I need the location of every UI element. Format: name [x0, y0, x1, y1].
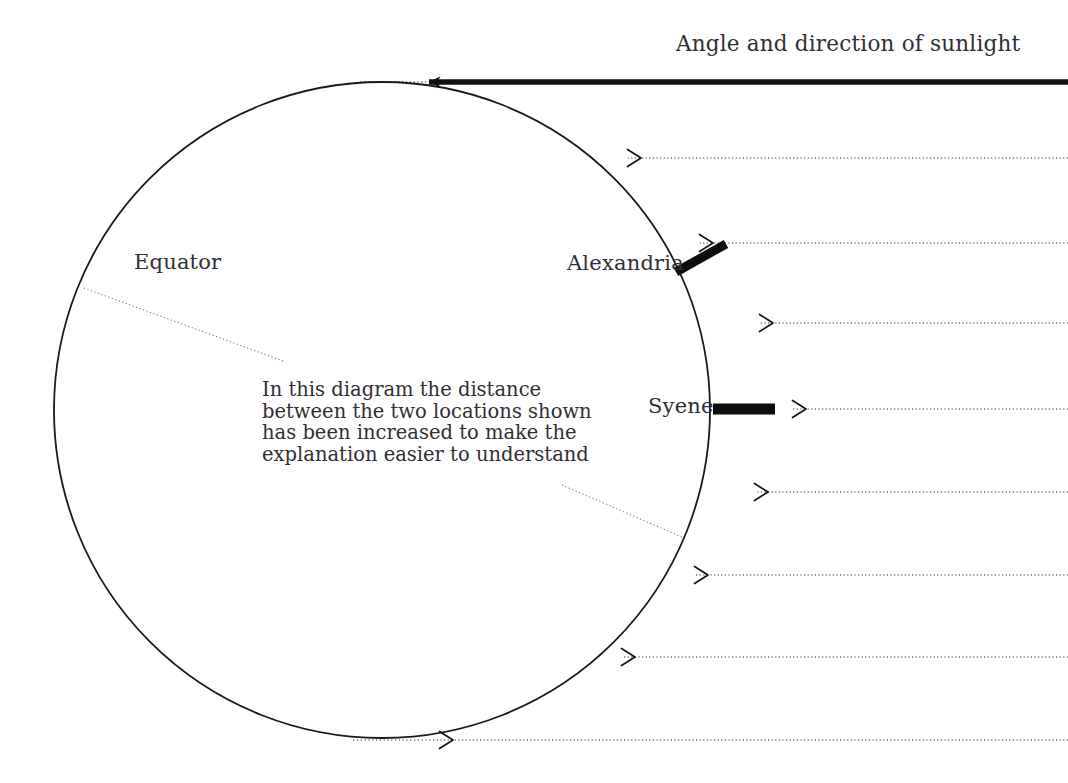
diagram-canvas: Angle and direction of sunlight Equator …: [0, 0, 1068, 783]
caption-leader-line: [562, 485, 684, 538]
syene-label: Syene: [648, 394, 714, 418]
equator-label: Equator: [134, 250, 221, 274]
caption-line-1: In this diagram the distance: [262, 379, 582, 401]
caption-line-4: explanation easier to understand: [262, 444, 582, 466]
equator-leader-line: [84, 288, 283, 361]
caption-line-2: between the two locations shown: [262, 401, 582, 423]
explanation-caption: In this diagram the distance between the…: [262, 379, 582, 465]
caption-line-3: has been increased to make the: [262, 422, 582, 444]
alexandria-label: Alexandria: [567, 251, 684, 275]
sunlight-title-label: Angle and direction of sunlight: [676, 31, 1020, 56]
